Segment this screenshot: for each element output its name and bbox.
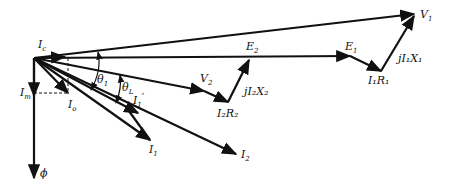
label-i1-prime: I1′ [132, 91, 145, 109]
vector-i2r2 [204, 91, 228, 102]
vector-ic [34, 57, 65, 58]
label-i2r2: I₂R₂ [216, 107, 238, 120]
label-v1: V1 [420, 8, 432, 23]
vector-i1r1 [350, 56, 381, 71]
label-i1: I1 [148, 143, 158, 158]
label-phi: ϕ [40, 167, 48, 180]
label-io: Io [67, 98, 77, 113]
label-v2: V2 [200, 72, 213, 87]
label-im: Im [19, 86, 31, 101]
label-e1: E1 [344, 40, 358, 55]
label-ji1x1: jI₁X₁ [395, 52, 422, 65]
vector-e1 [34, 56, 350, 58]
label-ic: Ic [37, 38, 46, 53]
label-i2: I2 [240, 148, 250, 163]
label-i1r1: I₁R₁ [367, 74, 389, 87]
label-theta1: θ1 [97, 73, 108, 88]
phasor-diagram: V1 E1 E2 V2 I₁R₁ jI₁X₁ I₂R₂ jI₂X₂ Ic Im … [0, 0, 452, 193]
vector-v2 [34, 58, 204, 91]
label-thetaL: θL [122, 81, 134, 96]
label-ji2x2: jI₂X₂ [241, 85, 268, 98]
label-e2: E2 [245, 40, 259, 55]
